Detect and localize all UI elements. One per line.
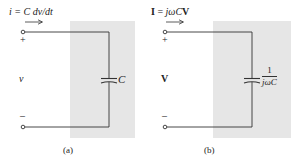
circuit-a [21,20,117,129]
current-equation-a: i = C dv/dt [9,7,53,17]
plus-terminal-a: + [20,35,26,45]
impedance-numerator: 1 [262,66,277,77]
impedance-label-b: 1 jωC [262,66,277,87]
caption-a: (a) [63,146,73,155]
circuit-b [163,20,260,129]
capacitor-label-a: C [118,74,125,85]
phasor-voltage: V [182,6,189,17]
plus-terminal-b: + [162,35,168,45]
j-omega: jω [166,6,176,17]
current-equation-b: I = jωCV [151,7,189,17]
equals-sign: = [155,6,166,17]
minus-terminal-b: – [162,111,167,121]
circuit-wires [0,0,299,166]
minus-terminal-a: – [20,111,25,121]
impedance-denominator: jωC [262,77,277,87]
voltage-label-b: V [161,74,168,84]
voltage-label-a: v [19,74,23,84]
caption-b: (b) [204,146,215,155]
